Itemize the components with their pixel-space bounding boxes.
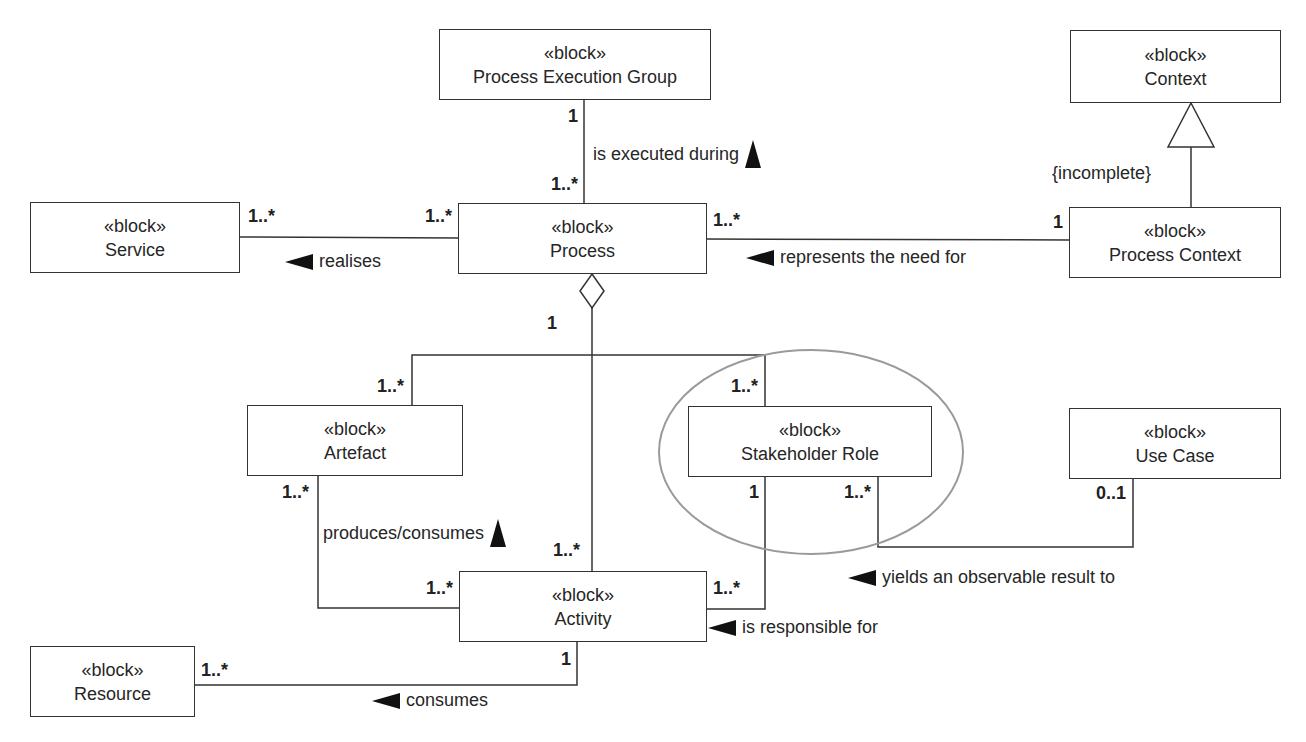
label-responsible-for: is responsible for [708, 617, 878, 638]
block-name: Artefact [324, 441, 386, 465]
direction-left-icon [708, 620, 736, 636]
stereotype: «block» [1144, 420, 1206, 444]
stereotype: «block» [1144, 43, 1206, 67]
block-name: Process Context [1109, 243, 1241, 267]
block-name: Service [105, 238, 165, 262]
mult-process-left: 1..* [425, 206, 452, 227]
block-name: Activity [554, 607, 611, 631]
label-yields-result: yields an observable result to [848, 567, 1115, 588]
label-represents-need: represents the need for [746, 247, 966, 268]
mult-use-case: 0..1 [1096, 483, 1126, 504]
mult-activity-left: 1..* [426, 578, 453, 599]
generalisation-arrowhead [1168, 103, 1214, 147]
stereotype: «block» [1144, 219, 1206, 243]
direction-up-icon [745, 140, 761, 168]
stereotype: «block» [779, 418, 841, 442]
label-executed-during: is executed during [593, 140, 761, 168]
block-activity[interactable]: «block» Activity [459, 571, 707, 642]
direction-up-icon [490, 519, 506, 547]
constraint-incomplete: {incomplete} [1052, 163, 1151, 184]
mult-process-right: 1..* [713, 210, 740, 231]
stereotype: «block» [552, 583, 614, 607]
block-name: Process [550, 239, 615, 263]
mult-stakeholder-bottom-left: 1 [749, 482, 759, 503]
direction-left-icon [848, 570, 876, 586]
block-stakeholder-role[interactable]: «block» Stakeholder Role [688, 406, 932, 477]
block-service[interactable]: «block» Service [30, 202, 240, 273]
block-process-execution-group[interactable]: «block» Process Execution Group [439, 29, 711, 100]
stereotype: «block» [551, 215, 613, 239]
mult-stakeholder-bottom-right: 1..* [844, 482, 871, 503]
block-process-context[interactable]: «block» Process Context [1069, 207, 1281, 278]
mult-peg: 1 [568, 106, 578, 127]
aggregation-diamond [580, 274, 604, 308]
mult-aggregation-whole: 1 [547, 313, 557, 334]
mult-service: 1..* [248, 206, 275, 227]
label-realises: realises [285, 251, 381, 272]
block-use-case[interactable]: «block» Use Case [1069, 408, 1281, 479]
block-process[interactable]: «block» Process [458, 203, 707, 274]
block-resource[interactable]: «block» Resource [30, 646, 195, 717]
block-name: Process Execution Group [473, 65, 677, 89]
mult-process-top: 1..* [551, 174, 578, 195]
block-name: Context [1144, 67, 1206, 91]
direction-left-icon [372, 693, 400, 709]
link-realises [240, 237, 458, 238]
mult-activity-top: 1..* [553, 540, 580, 561]
label-consumes: consumes [372, 690, 488, 711]
mult-artefact-bottom: 1..* [282, 482, 309, 503]
stereotype: «block» [81, 658, 143, 682]
mult-resource: 1..* [201, 660, 228, 681]
direction-left-icon [285, 254, 313, 270]
stereotype: «block» [324, 417, 386, 441]
direction-left-icon [746, 250, 774, 266]
mult-stakeholder-top: 1..* [731, 376, 758, 397]
stereotype: «block» [104, 214, 166, 238]
link-yields-result [878, 476, 1133, 547]
block-name: Stakeholder Role [741, 442, 879, 466]
label-produces-consumes: produces/consumes [323, 519, 506, 547]
block-artefact[interactable]: «block» Artefact [247, 405, 463, 476]
mult-activity-right: 1..* [713, 578, 740, 599]
mult-artefact-top: 1..* [377, 376, 404, 397]
block-name: Resource [74, 682, 151, 706]
link-represents-need [706, 239, 1069, 240]
block-name: Use Case [1135, 444, 1214, 468]
link-consumes [195, 641, 577, 685]
mult-activity-bottom: 1 [561, 649, 571, 670]
link-aggregation-branch [412, 355, 765, 406]
stereotype: «block» [544, 41, 606, 65]
block-context[interactable]: «block» Context [1070, 30, 1281, 103]
mult-process-context: 1 [1053, 212, 1063, 233]
